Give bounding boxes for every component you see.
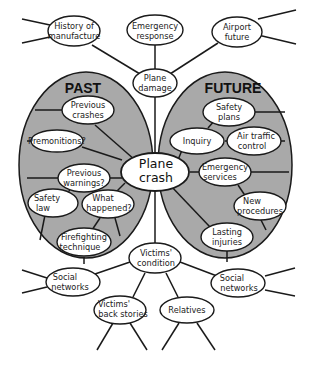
node-relatives: Relatives — [160, 297, 214, 323]
svg-text:manufacture: manufacture — [48, 31, 100, 41]
node-previous-warnings: Previous warnings? — [58, 164, 110, 192]
svg-text:procedures: procedures — [237, 206, 283, 216]
node-new-procedures: New procedures — [234, 192, 286, 220]
svg-text:networks: networks — [220, 283, 258, 293]
svg-text:Emergency: Emergency — [132, 21, 178, 31]
node-lasting-injuries: Lasting injuries — [201, 223, 253, 251]
svg-text:Social: Social — [53, 272, 77, 282]
node-premonitions: Premonitions? — [28, 130, 86, 152]
node-social-networks-right: Social networks — [211, 269, 265, 297]
svg-text:plans: plans — [218, 112, 240, 122]
svg-text:Emergency: Emergency — [202, 162, 248, 172]
svg-text:services: services — [203, 172, 237, 182]
svg-text:damage: damage — [138, 83, 171, 93]
svg-text:Premonitions?: Premonitions? — [28, 136, 86, 146]
svg-text:happened?: happened? — [86, 203, 131, 213]
node-victims-condition: Victims' condition — [129, 243, 181, 273]
node-safety-law: Safety law — [28, 189, 78, 217]
node-emergency-services: Emergency services — [199, 158, 251, 186]
node-emergency-response: Emergency response — [127, 15, 183, 45]
node-previous-crashes: Previous crashes — [62, 96, 114, 124]
svg-text:Social: Social — [220, 273, 244, 283]
svg-text:Inquiry: Inquiry — [183, 136, 212, 146]
node-plane-crash: Plane crash — [121, 153, 189, 191]
svg-text:Firefighting: Firefighting — [61, 232, 107, 242]
svg-text:Plane: Plane — [139, 156, 174, 171]
svg-text:future: future — [225, 32, 250, 42]
svg-text:networks: networks — [51, 282, 89, 292]
svg-text:back stories: back stories — [98, 309, 148, 319]
svg-text:Safety: Safety — [34, 193, 60, 203]
svg-text:New: New — [243, 196, 261, 206]
svg-text:Previous: Previous — [67, 168, 102, 178]
mind-map-diagram: PAST FUTURE History of manufacture Emerg… — [0, 0, 311, 365]
node-safety-plans: Safety plans — [203, 98, 255, 126]
node-firefighting-technique: Firefighting technique — [57, 228, 111, 256]
svg-text:Victims': Victims' — [140, 248, 172, 258]
svg-text:crashes: crashes — [72, 110, 104, 120]
svg-text:Previous: Previous — [71, 100, 106, 110]
node-inquiry: Inquiry — [170, 128, 224, 154]
svg-text:response: response — [136, 31, 173, 41]
svg-text:Safety: Safety — [216, 102, 242, 112]
svg-text:crash: crash — [139, 170, 173, 185]
svg-text:technique: technique — [60, 242, 101, 252]
svg-text:Airport: Airport — [223, 22, 252, 32]
svg-text:warnings?: warnings? — [63, 178, 104, 188]
svg-text:Victims': Victims' — [98, 299, 130, 309]
node-what-happened: What happened? — [82, 190, 134, 218]
node-air-traffic-control: Air traffic control — [227, 127, 281, 155]
svg-text:Plane: Plane — [144, 73, 166, 83]
node-victims-back-stories: Victims' back stories — [94, 296, 148, 324]
svg-text:law: law — [36, 203, 50, 213]
svg-text:Air traffic: Air traffic — [237, 131, 275, 141]
node-social-networks-left: Social networks — [46, 268, 100, 296]
svg-text:control: control — [238, 141, 266, 151]
node-airport-future: Airport future — [212, 17, 262, 47]
svg-text:condition: condition — [137, 258, 175, 268]
svg-text:History of: History of — [54, 21, 95, 31]
svg-text:Lasting: Lasting — [212, 227, 242, 237]
svg-text:injuries: injuries — [212, 237, 242, 247]
future-heading: FUTURE — [205, 80, 262, 96]
past-heading: PAST — [65, 80, 102, 96]
svg-text:Relatives: Relatives — [168, 305, 205, 315]
node-plane-damage: Plane damage — [133, 69, 177, 97]
node-history-of-manufacture: History of manufacture — [48, 16, 100, 46]
svg-text:What: What — [92, 193, 114, 203]
